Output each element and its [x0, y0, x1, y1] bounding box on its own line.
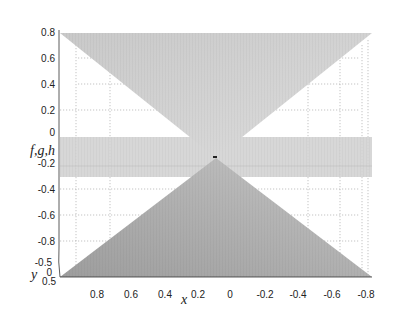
- svg-text:-0.8: -0.8: [357, 289, 375, 300]
- chart-canvas: 0.8 0.6 0.4 0.2 0 -0.2 -0.4 -0.6 -0.8 f,…: [0, 0, 395, 322]
- svg-text:-0.4: -0.4: [289, 289, 307, 300]
- svg-text:0.2: 0.2: [191, 289, 205, 300]
- svg-text:-0.8: -0.8: [38, 236, 56, 247]
- y-axis-ticks: -0.5 0 0.5: [35, 257, 57, 287]
- svg-text:0: 0: [227, 289, 233, 300]
- svg-text:0.4: 0.4: [158, 289, 172, 300]
- svg-text:0.4: 0.4: [41, 79, 55, 90]
- x-axis-label: x: [180, 292, 188, 307]
- svg-text:-0.6: -0.6: [323, 289, 341, 300]
- y-axis-label: y: [29, 267, 38, 282]
- apex-marker: [213, 156, 217, 158]
- svg-text:0.6: 0.6: [124, 289, 138, 300]
- z-axis-line: [59, 30, 60, 277]
- svg-text:-0.2: -0.2: [38, 158, 56, 169]
- z-axis-label: f,g,h: [30, 143, 55, 158]
- svg-text:0: 0: [49, 127, 55, 138]
- x-axis-ticks: 0.8 0.6 0.4 0.2 0 -0.2 -0.4 -0.6 -0.8: [90, 289, 375, 300]
- svg-text:0.5: 0.5: [42, 276, 56, 287]
- svg-text:0.2: 0.2: [41, 105, 55, 116]
- svg-text:-0.2: -0.2: [256, 289, 274, 300]
- svg-text:0.8: 0.8: [90, 289, 104, 300]
- svg-text:0.8: 0.8: [41, 27, 55, 38]
- svg-text:0.6: 0.6: [41, 53, 55, 64]
- svg-text:-0.6: -0.6: [38, 210, 56, 221]
- svg-text:-0.4: -0.4: [38, 184, 56, 195]
- z-axis-ticks: 0.8 0.6 0.4 0.2 0 -0.2 -0.4 -0.6 -0.8: [38, 27, 56, 247]
